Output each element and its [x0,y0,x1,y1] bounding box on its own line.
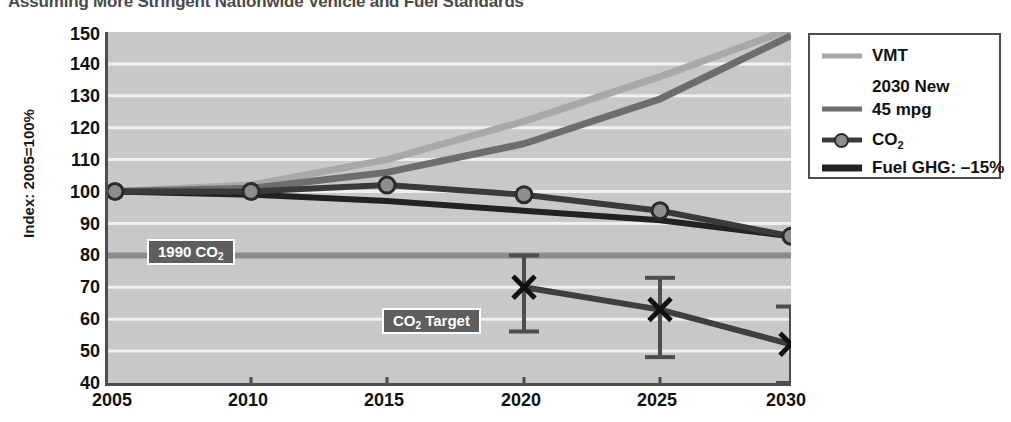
legend-label-45mpg-line2: 45 mpg [872,100,932,120]
series-line-vmt [115,32,791,191]
x-tick-2030: 2030 [766,390,806,411]
chart-title: Assuming More Stringent Nationwide Vehic… [8,0,524,12]
chart-legend: VMT 2030 New 45 mpg CO2 Fuel GHG: –15% [808,33,1001,179]
y-tick-140: 140 [54,53,100,74]
x-tick-2015: 2015 [364,390,404,411]
x-tick-2010: 2010 [228,390,268,411]
legend-item-co2[interactable]: CO2 [810,125,999,155]
legend-swatch-45mpg-icon [822,107,862,112]
y-tick-80: 80 [54,245,100,266]
annotation-co2-target-pre: CO [393,312,416,329]
annotation-co2-target-post: Target [421,312,470,329]
x-axis-ticks-marks [251,377,791,383]
legend-marker-co2-icon [834,133,849,148]
annotation-1990-co2: 1990 CO2 [147,239,235,265]
y-axis-title: Index: 2005=100% [20,94,37,254]
annotation-co2-target: CO2 Target [382,308,481,334]
legend-label-co2: CO2 [872,130,904,150]
legend-swatch-fuel-ghg-icon [822,165,862,172]
annotation-1990-co2-text: 1990 CO [158,243,218,260]
legend-item-fuel-ghg[interactable]: Fuel GHG: –15% [810,153,999,183]
legend-item-vmt[interactable]: VMT [810,41,999,71]
legend-label-co2-subscript: 2 [898,139,904,151]
y-tick-130: 130 [54,85,100,106]
chart-root: Assuming More Stringent Nationwide Vehic… [0,0,1011,422]
y-tick-50: 50 [54,341,100,362]
legend-label-co2-pre: CO [872,130,898,149]
x-tick-2025: 2025 [637,390,677,411]
annotation-co2-target-subscript: 2 [416,320,422,331]
legend-swatch-vmt-icon [822,54,862,59]
y-axis-ticks: 40 50 60 70 80 90 100 110 120 130 140 15… [50,32,100,383]
legend-label-45mpg-line1: 2030 New [872,77,950,97]
y-tick-70: 70 [54,277,100,298]
y-tick-60: 60 [54,309,100,330]
series-line-co2-target [524,287,791,344]
legend-label-fuel-ghg: Fuel GHG: –15% [872,158,1004,178]
legend-label-vmt: VMT [872,46,908,66]
y-tick-110: 110 [54,149,100,170]
legend-item-45mpg[interactable]: 2030 New 45 mpg [810,75,999,123]
x-tick-2005: 2005 [92,390,132,411]
series-line-2030-new-45-mpg [115,36,791,192]
y-tick-90: 90 [54,213,100,234]
y-tick-150: 150 [54,24,100,45]
y-tick-100: 100 [54,181,100,202]
plot-area: 1990 CO2 CO2 Target [105,32,791,386]
annotation-1990-co2-subscript: 2 [218,251,224,262]
x-tick-2020: 2020 [501,390,541,411]
y-tick-120: 120 [54,117,100,138]
